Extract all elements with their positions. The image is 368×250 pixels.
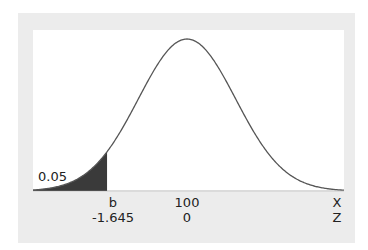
z-axis-label: Z: [333, 211, 342, 225]
x-tick-mean: 100: [175, 196, 200, 210]
x-tick-b: b: [109, 196, 117, 210]
z-tick-critical: -1.645: [92, 211, 134, 225]
tail-area-label: 0.05: [38, 170, 67, 184]
density-curve: [33, 39, 344, 190]
z-tick-zero: 0: [183, 211, 191, 225]
x-axis-label: X: [333, 196, 342, 210]
normal-curve: [33, 30, 344, 192]
